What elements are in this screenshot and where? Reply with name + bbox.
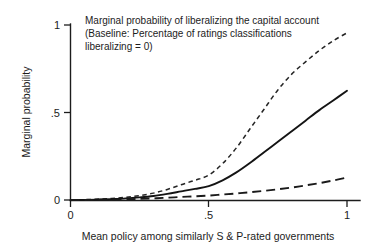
y-tick-label-0: 0 xyxy=(54,194,60,206)
marginal-probability-line-chart: Marginal probability of liberalizing the… xyxy=(0,0,373,252)
series-lower-bound-long-dashed xyxy=(71,178,348,201)
y-tick-label-0.5: .5 xyxy=(51,107,60,119)
x-tick-label-0.5: .5 xyxy=(204,209,213,221)
chart-figure: Marginal probability of liberalizing the… xyxy=(0,0,373,252)
annotation-line-3: liberalizing = 0) xyxy=(85,41,153,52)
series-point-estimate-solid xyxy=(71,91,348,200)
annotation-line-1: Marginal probability of liberalizing the… xyxy=(85,15,319,26)
x-tick-label-0: 0 xyxy=(67,209,73,221)
x-tick-label-1: 1 xyxy=(344,209,350,221)
y-axis-title: Marginal probability xyxy=(20,66,32,158)
y-tick-label-1: 1 xyxy=(54,19,60,31)
x-axis-title: Mean policy among similarly S & P-rated … xyxy=(82,230,335,242)
series-upper-bound-short-dashed xyxy=(71,33,348,200)
annotation-line-2: (Baseline: Percentage of ratings classif… xyxy=(85,28,292,39)
